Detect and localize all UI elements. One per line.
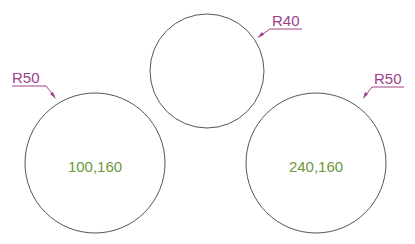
dimension-left: R50 (12, 69, 56, 99)
center-label-left: 100,160 (68, 158, 122, 175)
arrowhead-icon (257, 32, 264, 38)
circle-top (150, 14, 264, 128)
cad-drawing: R50 R40 R50 100,160 240,160 (0, 0, 415, 244)
arrowhead-icon (50, 92, 56, 99)
radius-label-left: R50 (12, 69, 40, 86)
dimension-right: R50 (363, 70, 404, 99)
center-label-right: 240,160 (289, 158, 343, 175)
dimension-top: R40 (257, 12, 302, 38)
radius-label-right: R50 (374, 70, 402, 87)
radius-label-top: R40 (272, 12, 300, 29)
